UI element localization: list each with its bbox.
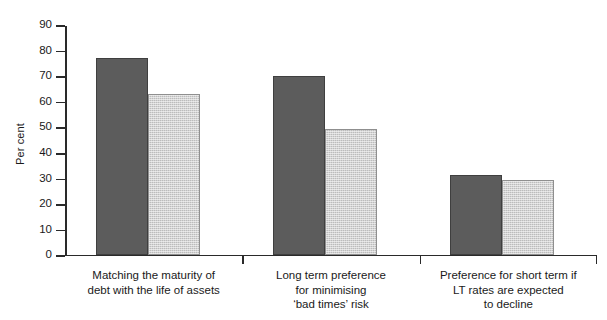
x-axis-line [65,255,597,257]
y-axis-line [65,26,67,256]
bar [273,76,325,255]
y-axis-tick: 90 [56,25,65,27]
y-axis-tick: 20 [56,204,65,206]
y-axis-tick-label: 20 [39,196,52,210]
y-axis-tick-label: 40 [39,145,52,159]
y-axis-tick: 80 [56,51,65,53]
bar [148,94,200,255]
x-axis-category-label: Preference for short term if LT rates ar… [406,268,607,312]
bar-chart: Per cent 0102030405060708090 Matching th… [0,0,607,320]
bar [325,129,377,254]
y-axis-tick: 70 [56,76,65,78]
bar [450,175,502,254]
y-axis-title: Per cent [14,104,26,184]
bar [96,58,148,255]
y-axis-tick-label: 90 [39,17,52,31]
y-axis-tick-label: 10 [39,222,52,236]
bar [502,180,554,254]
y-axis-tick: 10 [56,230,65,232]
plot-area: 0102030405060708090 [65,26,597,256]
y-axis-tick-label: 60 [39,94,52,108]
y-axis-tick: 30 [56,179,65,181]
x-axis-category-label: Matching the maturity of debt with the l… [51,268,256,297]
y-axis-tick-label: 30 [39,171,52,185]
y-axis-tick: 0 [56,255,65,257]
x-axis-tick [420,256,422,264]
y-axis-tick-label: 0 [46,247,52,261]
y-axis-tick: 60 [56,102,65,104]
y-axis-tick: 50 [56,127,65,129]
x-axis-tick [596,256,598,264]
y-axis-tick-label: 50 [39,119,52,133]
x-axis-tick [242,256,244,264]
y-axis-tick-label: 80 [39,43,52,57]
y-axis-tick: 40 [56,153,65,155]
y-axis-tick-label: 70 [39,68,52,82]
x-axis-category-label: Long term preference for minimising ‘bad… [228,268,433,312]
